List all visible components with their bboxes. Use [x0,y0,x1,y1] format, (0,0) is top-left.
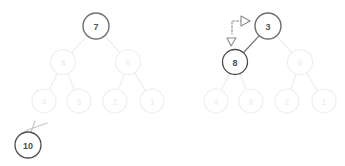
swap-arrows-layer [227,16,250,46]
tree-node-8[interactable]: 8 [223,50,248,75]
node-label-5: 5 [126,58,131,68]
tree-edge-R-root-to-R-n8 [243,36,259,53]
tree-edge-R-root-to-R-n5 [277,36,292,53]
node-label-6: 6 [249,97,254,107]
tree-node-4[interactable]: 4 [204,89,228,113]
tree-edge-L-root-to-L-n5 [105,36,120,53]
tree-node-6[interactable]: 6 [239,89,263,113]
nodes-layer: 7854621103854621 [15,13,336,158]
node-label-4: 4 [214,97,219,107]
diagram-canvas: 7854621103854621 [0,0,345,166]
tree-edge-R-n8-to-R-n4 [221,73,229,90]
node-label-3: 3 [265,22,270,32]
tree-node-1[interactable]: 1 [140,89,164,113]
cut-edges-layer [25,121,47,132]
tree-node-2[interactable]: 2 [275,89,299,113]
node-label-4: 4 [42,97,47,107]
detached-edge-to-10 [25,123,47,131]
heap-diagram: 7854621103854621 [0,0,345,166]
tree-edge-R-n5-to-R-n2 [291,74,296,90]
tree-edge-L-root-to-L-n8 [71,36,87,53]
node-label-8: 8 [61,58,66,68]
tree-node-3[interactable]: 3 [255,13,281,39]
node-label-1: 1 [150,97,155,107]
tree-edge-L-n5-to-L-n2 [119,74,124,90]
tree-node-5[interactable]: 5 [116,50,141,75]
tree-edge-L-n8-to-L-n4 [49,73,57,90]
tree-node-4[interactable]: 4 [32,89,56,113]
tree-edge-L-n5-to-L-n1 [135,73,146,91]
tree-node-1[interactable]: 1 [312,89,336,113]
tree-edge-R-n5-to-R-n1 [307,73,318,91]
tree-node-2[interactable]: 2 [103,89,127,113]
edges-layer [49,36,317,91]
node-label-10: 10 [23,141,33,151]
arrowhead-to-root-icon [241,16,250,26]
tree-node-7[interactable]: 7 [83,13,109,39]
node-label-2: 2 [285,97,290,107]
tree-node-10[interactable]: 10 [15,132,41,158]
cut-slash-icon [31,121,35,132]
node-label-2: 2 [113,97,118,107]
tree-node-8[interactable]: 8 [51,50,76,75]
node-label-8: 8 [232,58,237,68]
node-label-7: 7 [93,22,98,32]
tree-node-5[interactable]: 5 [288,50,313,75]
node-label-5: 5 [298,58,303,68]
tree-edge-R-n8-to-R-n6 [240,74,247,90]
node-label-6: 6 [77,97,82,107]
arrowhead-to-child-icon [227,38,236,46]
node-label-1: 1 [322,97,327,107]
tree-node-6[interactable]: 6 [67,89,91,113]
tree-edge-L-n8-to-L-n6 [68,74,75,90]
